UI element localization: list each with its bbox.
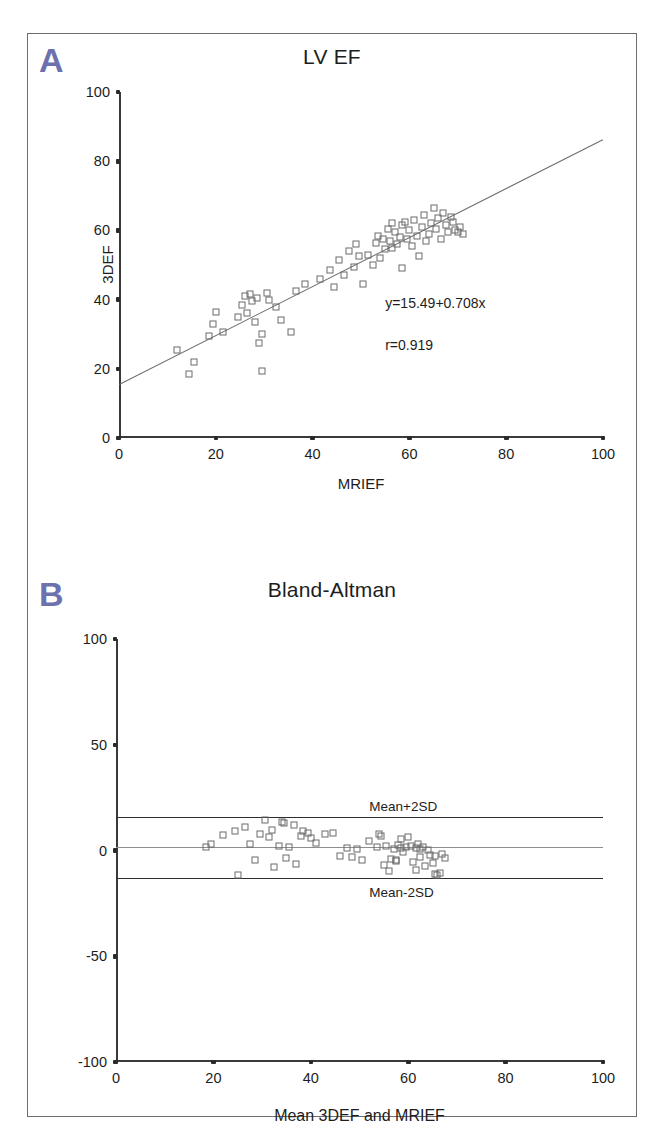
data-point-marker	[378, 832, 385, 839]
y-tick-mark	[113, 848, 118, 853]
panel-a-x-axis-label: MRIEF	[119, 476, 603, 491]
x-tick-mark	[310, 436, 315, 441]
data-point-marker	[244, 310, 251, 317]
data-point-marker	[425, 230, 432, 237]
data-point-marker	[430, 204, 437, 211]
panel-a-x-axis	[119, 436, 603, 438]
data-point-marker	[258, 367, 265, 374]
data-point-marker	[440, 210, 447, 217]
y-tick-label: 20	[94, 362, 110, 377]
data-point-marker	[268, 827, 275, 834]
data-point-marker	[191, 358, 198, 365]
data-point-marker	[302, 281, 309, 288]
data-point-marker	[322, 830, 329, 837]
x-tick-mark	[406, 1060, 411, 1065]
panel-a-regression-equation: y=15.49+0.708x	[385, 296, 485, 310]
y-tick-label: 0	[102, 431, 110, 446]
x-tick-label: 20	[208, 447, 224, 462]
data-point-marker	[242, 824, 249, 831]
panel-a: A LV EF 020406080100 020406080100 y=15.4…	[28, 34, 636, 569]
y-tick-mark	[113, 954, 118, 959]
x-tick-mark	[214, 436, 219, 441]
y-tick-label: 80	[94, 154, 110, 169]
data-point-marker	[246, 841, 253, 848]
data-point-marker	[431, 852, 438, 859]
data-point-marker	[281, 820, 288, 827]
data-point-marker	[341, 272, 348, 279]
y-tick-mark	[113, 637, 118, 642]
data-point-marker	[393, 857, 400, 864]
data-point-marker	[355, 253, 362, 260]
x-tick-mark	[114, 1060, 119, 1065]
x-tick-label: 40	[303, 1071, 319, 1086]
x-tick-mark	[601, 1060, 606, 1065]
panel-a-plot-area: 020406080100 020406080100 y=15.49+0.708x…	[119, 92, 603, 438]
reference-line-meanminus2sd	[116, 878, 603, 879]
data-point-marker	[326, 267, 333, 274]
figure-frame: A LV EF 020406080100 020406080100 y=15.4…	[27, 33, 637, 1117]
data-point-marker	[344, 845, 351, 852]
data-point-marker	[256, 830, 263, 837]
data-point-marker	[329, 829, 336, 836]
data-point-marker	[261, 816, 268, 823]
y-tick-label: 50	[91, 738, 107, 753]
x-tick-label: 20	[205, 1071, 221, 1086]
x-tick-label: 80	[498, 447, 514, 462]
y-tick-label: 100	[83, 632, 107, 647]
y-tick-mark	[113, 743, 118, 748]
panel-a-title: LV EF	[28, 46, 636, 67]
data-point-marker	[360, 281, 367, 288]
x-tick-label: 100	[591, 1071, 615, 1086]
data-point-marker	[287, 329, 294, 336]
data-point-marker	[379, 236, 386, 243]
data-point-marker	[358, 857, 365, 864]
data-point-marker	[345, 248, 352, 255]
y-tick-mark	[116, 297, 121, 302]
panel-b-plot-area: -100-50050100 020406080100 Mean+2SD Mean…	[116, 639, 603, 1062]
data-point-marker	[412, 866, 419, 873]
data-point-marker	[253, 294, 260, 301]
x-tick-mark	[211, 1060, 216, 1065]
data-point-marker	[370, 262, 377, 269]
data-point-marker	[401, 218, 408, 225]
data-point-marker	[210, 320, 217, 327]
y-tick-label: 100	[86, 85, 110, 100]
data-point-marker	[416, 253, 423, 260]
data-point-marker	[437, 236, 444, 243]
x-tick-mark	[309, 1060, 314, 1065]
data-point-marker	[399, 265, 406, 272]
data-point-marker	[449, 218, 456, 225]
data-point-marker	[420, 211, 427, 218]
panel-b: B Bland-Altman -100-50050100 02040608010…	[28, 569, 636, 1116]
data-point-marker	[337, 852, 344, 859]
data-point-marker	[276, 843, 283, 850]
data-point-marker	[349, 853, 356, 860]
y-tick-label: 0	[99, 843, 107, 858]
x-tick-mark	[117, 436, 122, 441]
y-tick-label: -100	[78, 1055, 107, 1070]
y-tick-label: -50	[86, 949, 107, 964]
x-tick-mark	[503, 1060, 508, 1065]
data-point-marker	[373, 844, 380, 851]
panel-a-y-axis-label: 3DEF	[100, 205, 115, 325]
data-point-marker	[232, 828, 239, 835]
data-point-marker	[336, 256, 343, 263]
data-point-marker	[383, 843, 390, 850]
y-tick-mark	[116, 367, 121, 372]
data-point-marker	[436, 869, 443, 876]
y-tick-mark	[116, 90, 121, 95]
data-point-marker	[408, 242, 415, 249]
panel-b-lower-limit-label: Mean-2SD	[369, 886, 434, 900]
data-point-marker	[278, 317, 285, 324]
data-point-marker	[406, 227, 413, 234]
data-point-marker	[234, 871, 241, 878]
data-point-marker	[212, 308, 219, 315]
data-point-marker	[459, 230, 466, 237]
x-tick-label: 80	[498, 1071, 514, 1086]
data-point-marker	[423, 237, 430, 244]
x-tick-label: 60	[400, 1071, 416, 1086]
data-point-marker	[385, 867, 392, 874]
data-point-marker	[266, 833, 273, 840]
y-tick-mark	[116, 228, 121, 233]
data-point-marker	[389, 220, 396, 227]
